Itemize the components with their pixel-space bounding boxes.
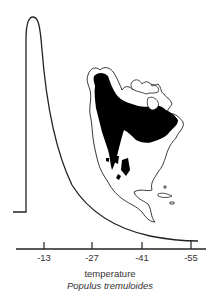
x-tick-label-3: -41 (135, 252, 149, 263)
caribbean-islands (158, 186, 174, 204)
x-tick-label-1: -13 (37, 252, 51, 263)
x-tick-label-4: -55 (184, 252, 198, 263)
species-label: Populus tremuloides (0, 280, 220, 291)
x-tick-label-2: -27 (85, 252, 99, 263)
north-america-map (87, 68, 183, 222)
x-axis-label: temperature (0, 268, 220, 279)
